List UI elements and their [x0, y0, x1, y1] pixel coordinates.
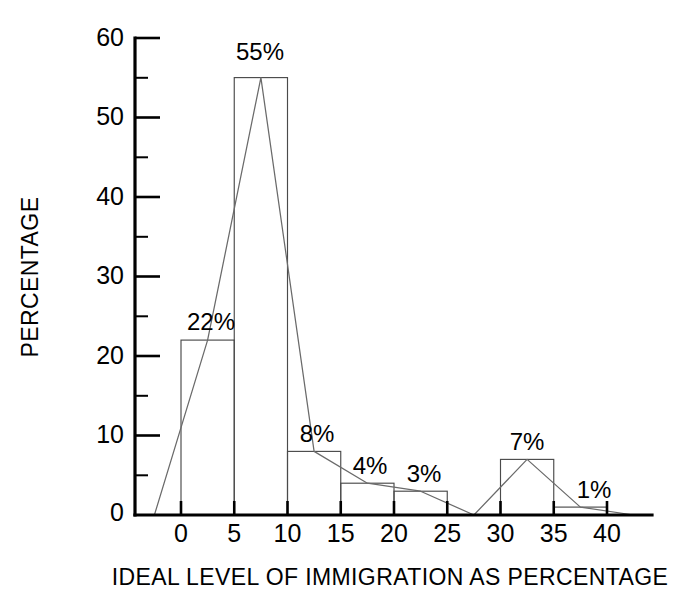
value-label-10-15: 8% — [300, 420, 335, 447]
value-label-30-35: 7% — [510, 428, 545, 455]
value-label-15-20: 4% — [353, 452, 388, 479]
y-tick-label-30: 30 — [96, 261, 124, 289]
x-axis-title: IDEAL LEVEL OF IMMIGRATION AS PERCENTAGE — [112, 564, 669, 590]
value-label-0-5: 22% — [187, 308, 235, 335]
value-label-20-25: 3% — [407, 460, 442, 487]
x-tick-label-15: 15 — [327, 519, 355, 547]
bar-30-35 — [501, 459, 554, 515]
value-labels-group: 22% 55% 8% 4% 3% 7% 1% — [187, 38, 611, 503]
y-tick-label-20: 20 — [96, 341, 124, 369]
bar-5-10 — [234, 78, 287, 515]
x-axis: 0 5 10 15 20 25 30 35 40 — [135, 501, 652, 547]
x-tick-label-40: 40 — [593, 519, 621, 547]
value-label-5-10: 55% — [236, 38, 284, 65]
histogram-figure: 60 50 40 30 20 10 0 0 5 10 15 20 25 — [0, 0, 684, 598]
y-tick-label-0: 0 — [110, 498, 124, 526]
x-tick-label-0: 0 — [174, 519, 188, 547]
x-tick-label-10: 10 — [274, 519, 302, 547]
x-tick-label-30: 30 — [487, 519, 515, 547]
bar-15-20 — [341, 483, 394, 515]
y-axis: 60 50 40 30 20 10 0 — [96, 23, 160, 526]
bar-20-25 — [394, 491, 447, 515]
bar-0-5 — [181, 340, 234, 515]
y-tick-label-60: 60 — [96, 23, 124, 51]
chart-canvas: 60 50 40 30 20 10 0 0 5 10 15 20 25 — [0, 0, 684, 598]
bar-10-15 — [288, 451, 341, 515]
y-tick-label-50: 50 — [96, 102, 124, 130]
y-tick-label-10: 10 — [96, 420, 124, 448]
x-tick-label-20: 20 — [380, 519, 408, 547]
value-label-35-40: 1% — [577, 476, 612, 503]
x-tick-label-35: 35 — [540, 519, 568, 547]
y-axis-title: PERCENTAGE — [17, 197, 43, 358]
y-tick-label-40: 40 — [96, 182, 124, 210]
x-tick-label-5: 5 — [227, 519, 241, 547]
x-tick-label-25: 25 — [433, 519, 461, 547]
frequency-polygon — [154, 78, 633, 515]
